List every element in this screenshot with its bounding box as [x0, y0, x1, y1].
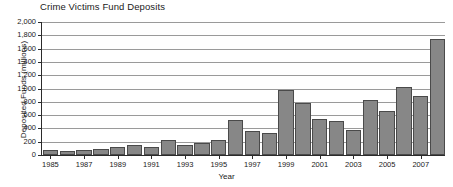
x-tick-mark: [353, 156, 354, 159]
gridline: [41, 62, 445, 63]
y-tick-mark: [38, 155, 42, 156]
gridline: [41, 89, 445, 90]
bar: [262, 133, 277, 155]
gridline: [41, 75, 445, 76]
x-tick-label: 2005: [379, 161, 396, 169]
bar: [245, 131, 260, 155]
bar: [177, 145, 192, 155]
y-tick-mark: [38, 75, 42, 76]
chart-figure: Crime Victims Fund Deposits Deposited Fu…: [0, 0, 453, 187]
x-tick-label: 1987: [76, 161, 93, 169]
y-tick-mark: [38, 102, 42, 103]
x-tick-mark: [84, 156, 85, 159]
y-tick-mark: [38, 115, 42, 116]
plot-area: 02004006008001,0001,2001,4001,6001,8002,…: [41, 22, 445, 156]
gridline: [41, 22, 445, 23]
x-tick-label: 2007: [412, 161, 429, 169]
y-tick-label: 400: [23, 125, 36, 133]
bar: [110, 147, 125, 156]
y-tick-mark: [38, 35, 42, 36]
y-tick-label: 200: [23, 138, 36, 146]
bar: [144, 147, 159, 156]
bar: [211, 140, 226, 155]
x-tick-label: 1989: [109, 161, 126, 169]
bar: [127, 145, 142, 155]
y-tick-mark: [38, 128, 42, 129]
bar: [228, 120, 243, 155]
y-tick-mark: [38, 62, 42, 63]
bar: [413, 96, 428, 155]
bar: [396, 87, 411, 155]
y-tick-mark: [38, 89, 42, 90]
x-tick-mark: [286, 156, 287, 159]
x-tick-label: 2001: [311, 161, 328, 169]
gridline: [41, 102, 445, 103]
bar: [278, 90, 293, 156]
x-tick-mark: [387, 156, 388, 159]
x-tick-label: 1995: [210, 161, 227, 169]
bar: [295, 103, 310, 155]
x-tick-label: 1991: [143, 161, 160, 169]
x-tick-mark: [185, 156, 186, 159]
y-tick-label: 1,600: [17, 45, 36, 53]
y-tick-label: 1,000: [17, 85, 36, 93]
x-tick-mark: [219, 156, 220, 159]
y-tick-label: 1,200: [17, 71, 36, 79]
y-tick-mark: [38, 49, 42, 50]
x-tick-mark: [252, 156, 253, 159]
bar: [363, 100, 378, 155]
x-tick-label: 1997: [244, 161, 261, 169]
x-axis-label: Year: [0, 172, 453, 181]
x-tick-label: 1999: [278, 161, 295, 169]
bar: [312, 119, 327, 155]
x-tick-mark: [50, 156, 51, 159]
y-tick-label: 600: [23, 111, 36, 119]
gridline: [41, 49, 445, 50]
bar: [346, 130, 361, 155]
y-tick-label: 800: [23, 98, 36, 106]
bar: [161, 140, 176, 155]
y-tick-mark: [38, 142, 42, 143]
bar: [93, 149, 108, 155]
bar: [76, 150, 91, 155]
bar: [329, 121, 344, 156]
y-tick-label: 0: [32, 151, 36, 159]
bar: [430, 39, 445, 155]
x-tick-mark: [151, 156, 152, 159]
x-axis-line: [41, 155, 445, 156]
x-tick-label: 2003: [345, 161, 362, 169]
y-tick-label: 1,400: [17, 58, 36, 66]
x-tick-label: 1993: [177, 161, 194, 169]
gridline: [41, 35, 445, 36]
bar: [379, 111, 394, 155]
x-tick-mark: [118, 156, 119, 159]
y-tick-mark: [38, 22, 42, 23]
x-tick-mark: [320, 156, 321, 159]
bar: [194, 143, 209, 155]
x-tick-mark: [421, 156, 422, 159]
y-tick-label: 2,000: [17, 18, 36, 26]
chart-title: Crime Victims Fund Deposits: [40, 1, 165, 12]
y-tick-label: 1,800: [17, 32, 36, 40]
bar: [43, 150, 58, 155]
x-tick-label: 1985: [42, 161, 59, 169]
bar: [60, 151, 75, 155]
